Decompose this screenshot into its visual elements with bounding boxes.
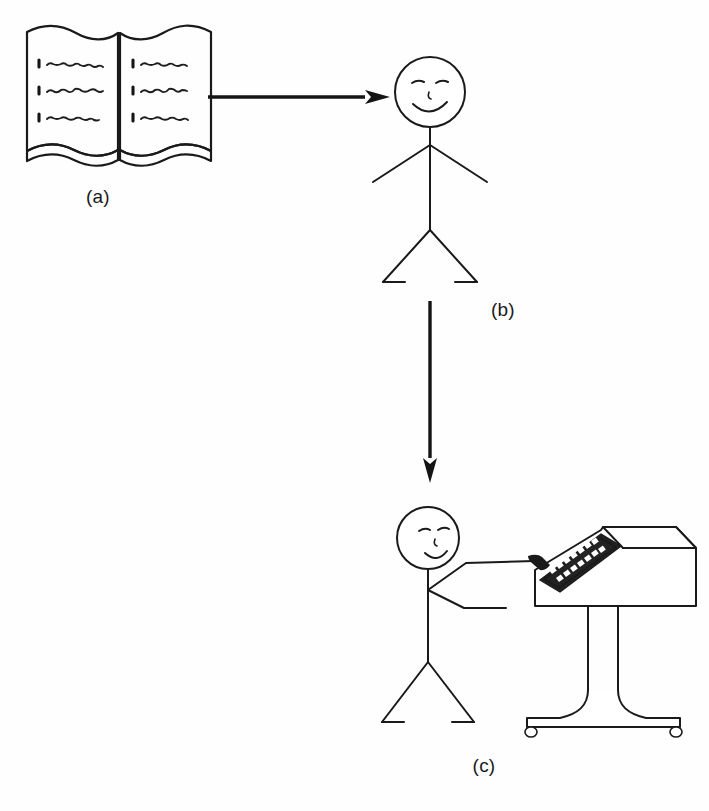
panel-b-label: (b) <box>491 299 515 320</box>
terminal-caster-right <box>670 727 682 737</box>
canvas-background <box>0 0 709 811</box>
figure-root: (a) <box>0 0 709 811</box>
figure-b-head <box>395 57 465 127</box>
figure-c-head <box>397 507 459 569</box>
terminal-caster-left <box>525 727 537 737</box>
panel-c-label: (c) <box>473 755 496 776</box>
panel-a-label: (a) <box>86 186 110 207</box>
figure-canvas: (a) <box>0 0 709 811</box>
